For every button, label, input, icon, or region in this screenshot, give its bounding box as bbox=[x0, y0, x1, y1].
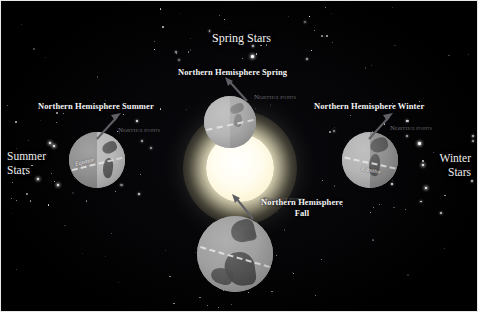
winter-stars-line2: Stars bbox=[448, 166, 471, 178]
summer-stars-line1: Summer bbox=[7, 150, 46, 162]
winter-stars-line1: Winter bbox=[440, 152, 471, 164]
heading-winter: Northern Hemisphere Winter bbox=[314, 101, 424, 111]
earth-spring bbox=[204, 96, 256, 148]
summer-stars-line2: Stars bbox=[7, 164, 30, 176]
heading-spring: Northern Hemisphere Spring bbox=[178, 67, 287, 77]
north-axis-label-winter: Northce Points bbox=[390, 116, 432, 134]
spring-stars-label: Spring Stars bbox=[212, 31, 271, 46]
north-axis-arrow-spring bbox=[223, 77, 253, 103]
heading-fall: Northern Hemisphere Fall bbox=[253, 197, 351, 219]
north-axis-label-spring: Northce Points bbox=[254, 85, 296, 103]
earth-shading bbox=[197, 216, 273, 292]
heading-fall-line1: Northern Hemisphere bbox=[261, 197, 343, 207]
earth-fall bbox=[197, 216, 273, 292]
earth-shading bbox=[204, 96, 256, 148]
winter-stars-label: Winter Stars bbox=[440, 151, 471, 179]
heading-summer: Northern Hemisphere Summer bbox=[38, 101, 154, 111]
heading-fall-line2: Fall bbox=[295, 208, 310, 218]
north-axis-label-summer: Northce Points bbox=[118, 118, 160, 136]
summer-stars-label: Summer Stars bbox=[7, 149, 46, 177]
seasons-orbit-figure: Northce Points Northern Hemisphere Sprin… bbox=[0, 0, 478, 312]
